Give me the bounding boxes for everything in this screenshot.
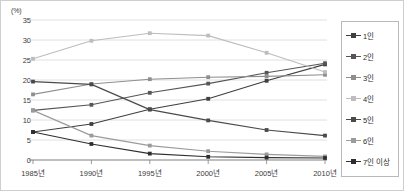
series-line (33, 75, 325, 95)
data-point (265, 71, 269, 75)
x-tick-label: 1985년 (21, 167, 45, 178)
line-chart: (%) 05101520253035 1985년1990년1995년2000년2… (0, 0, 340, 191)
legend-marker-icon (346, 157, 361, 166)
series-line (33, 64, 325, 132)
series-4 (31, 31, 327, 74)
data-point (148, 77, 152, 81)
legend-item-label: 2인 (363, 51, 374, 62)
series-line (33, 82, 325, 136)
x-tick-label: 2010년 (313, 167, 337, 178)
series-1 (31, 63, 327, 134)
data-point (90, 83, 94, 87)
chart-legend: 1인2인3인4인5인6인7인 이상 (341, 21, 399, 177)
legend-item-label: 3인 (363, 72, 374, 83)
legend-marker-icon (346, 136, 361, 145)
series-line (33, 132, 325, 158)
data-point (265, 79, 269, 83)
data-point (90, 134, 94, 138)
series-6 (31, 109, 327, 159)
data-point (323, 156, 327, 160)
data-point (148, 144, 152, 148)
plot-area (0, 0, 340, 191)
x-tick-label: 1990년 (80, 167, 104, 178)
legend-item-7[interactable]: 7인 이상 (346, 151, 398, 172)
data-point (323, 61, 327, 65)
data-point (206, 97, 210, 101)
legend-marker-icon (346, 52, 361, 61)
legend-item-label: 6인 (363, 135, 374, 146)
legend-marker-icon (346, 94, 361, 103)
legend-item-label: 5인 (363, 114, 374, 125)
data-point (90, 39, 94, 43)
data-point (206, 34, 210, 38)
data-point (206, 82, 210, 86)
data-point (265, 51, 269, 55)
chart-screenshot: (%) 05101520253035 1985년1990년1995년2000년2… (0, 0, 404, 191)
data-point (323, 70, 327, 74)
data-point (265, 156, 269, 160)
data-point (148, 31, 152, 35)
data-point (31, 80, 35, 84)
legend-item-3[interactable]: 3인 (346, 67, 398, 88)
x-tick-label: 2005년 (255, 167, 279, 178)
data-point (31, 130, 35, 134)
legend-item-label: 1인 (363, 30, 374, 41)
data-point (265, 128, 269, 132)
legend-item-6[interactable]: 6인 (346, 130, 398, 151)
data-point (90, 103, 94, 107)
data-point (206, 75, 210, 79)
data-point (90, 142, 94, 146)
legend-item-4[interactable]: 4인 (346, 88, 398, 109)
data-point (148, 152, 152, 156)
legend-item-label: 4인 (363, 93, 374, 104)
data-point (206, 119, 210, 123)
data-point (265, 75, 269, 79)
series-line (33, 110, 325, 156)
data-point (323, 134, 327, 138)
x-tick-label: 1995년 (138, 167, 162, 178)
data-point (206, 149, 210, 153)
data-point (148, 91, 152, 95)
data-point (206, 155, 210, 159)
legend-marker-icon (346, 115, 361, 124)
data-point (31, 109, 35, 113)
data-point (31, 57, 35, 61)
legend-item-1[interactable]: 1인 (346, 25, 398, 46)
legend-marker-icon (346, 31, 361, 40)
data-point (90, 122, 94, 126)
data-point (31, 93, 35, 97)
data-point (148, 108, 152, 112)
legend-item-label: 7인 이상 (363, 156, 390, 167)
series-line (33, 33, 325, 72)
legend-marker-icon (346, 73, 361, 82)
legend-item-2[interactable]: 2인 (346, 46, 398, 67)
x-tick-label: 2000년 (196, 167, 220, 178)
legend-item-5[interactable]: 5인 (346, 109, 398, 130)
series-3 (31, 73, 327, 96)
